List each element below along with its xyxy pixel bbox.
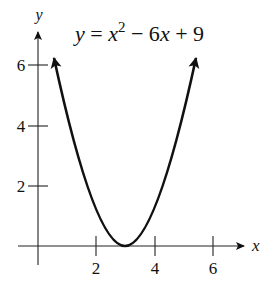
y-tick-label: 2 <box>17 177 26 196</box>
chart-title-equation: y = x2 − 6x + 9 <box>73 19 204 46</box>
x-tick-label: 2 <box>92 259 101 278</box>
x-tick-label: 4 <box>151 259 160 278</box>
x-tick-label: 6 <box>209 259 218 278</box>
parabola-curve <box>125 58 196 246</box>
y-axis-label: y <box>33 6 43 24</box>
y-tick-label: 6 <box>17 56 26 75</box>
x-axis-label: x <box>251 236 260 255</box>
parabola-chart: 2 4 6 2 4 6 y x y = x2 − 6x + 9 <box>0 0 262 286</box>
parabola-curve <box>54 58 125 246</box>
y-tick-label: 4 <box>17 117 26 136</box>
